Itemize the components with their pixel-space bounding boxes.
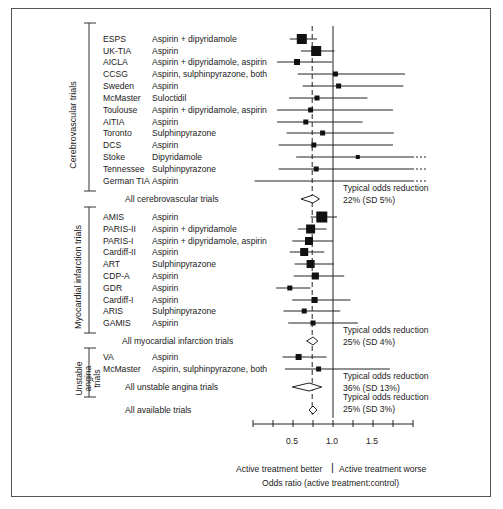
trial-treatment: Aspirin [152, 295, 178, 305]
overall-note: 25% (SD 3%) [343, 404, 395, 414]
point-estimate [311, 143, 316, 148]
summary-label: All myocardial infarction trials [122, 336, 233, 346]
trial-treatment: Aspirin, sulphinpyrazone, both [152, 69, 267, 79]
trial-name: GAMIS [103, 318, 131, 328]
direction-divider: | [331, 462, 334, 472]
trial-treatment: Aspirin + dipyridamole [152, 224, 237, 234]
point-estimate [311, 321, 316, 326]
trial-name: AITIA [103, 117, 125, 127]
summary-diamond [292, 383, 322, 391]
trial-treatment: Aspirin + dipyridamole [152, 34, 237, 44]
point-estimate [305, 237, 313, 245]
trial-name: AMIS [103, 212, 124, 222]
summary-note: Typical odds reduction [343, 371, 429, 381]
trial-name: Toronto [103, 128, 132, 138]
trial-treatment: Aspirin [152, 318, 178, 328]
trial-name: Tennessee [103, 164, 145, 174]
summary-diamond [307, 337, 318, 345]
tick-label-1-0: 1.0 [326, 436, 338, 446]
tick-label-0-5: 0.5 [286, 436, 298, 446]
trial-name: PARIS-II [103, 224, 136, 234]
point-estimate [297, 34, 307, 44]
point-estimate [315, 96, 320, 101]
point-estimate [302, 309, 307, 314]
trial-treatment: Aspirin [152, 352, 178, 362]
trial-name: PARIS-I [103, 236, 133, 246]
trial-treatment: Sulphinpyrazone [152, 306, 216, 316]
trial-name: Cardiff-II [103, 247, 136, 257]
trial-treatment: Aspirin [152, 212, 178, 222]
summary-note: Typical odds reduction [343, 325, 429, 335]
x-axis-label: Odds ratio (active treatment:control) [262, 478, 399, 488]
trial-treatment: Aspirin [152, 81, 178, 91]
trial-name: McMaster [103, 93, 141, 103]
trial-treatment: Aspirin [152, 176, 178, 186]
trial-treatment: Aspirin [152, 271, 178, 281]
point-estimate [314, 167, 319, 172]
trial-name: CDP-A [103, 271, 130, 281]
summary-note: 22% (SD 5%) [343, 195, 395, 205]
trial-name: Toulouse [103, 105, 137, 115]
summary-note: Typical odds reduction [343, 183, 429, 193]
trial-name: Cardiff-I [103, 295, 133, 305]
point-estimate [336, 84, 341, 89]
point-estimate [287, 286, 292, 291]
summary-label: All unstable angina trials [125, 382, 218, 392]
point-estimate [294, 59, 300, 65]
overall-note: Typical odds reduction [343, 392, 429, 402]
overall-diamond [309, 406, 317, 414]
trial-name: UK-TIA [103, 46, 131, 56]
trial-name: ARIS [103, 306, 123, 316]
group-label-myocardial: Myocardial infarction trials [73, 221, 83, 333]
trial-treatment: Aspirin [152, 247, 178, 257]
point-estimate [316, 212, 327, 223]
trial-name: ART [103, 259, 120, 269]
trial-name: DCS [103, 140, 121, 150]
trial-name: AICLA [103, 57, 128, 67]
trial-name: Sweden [103, 81, 134, 91]
direction-label-better: Active treatment better [236, 464, 322, 474]
point-estimate [303, 120, 308, 125]
trial-treatment: Aspirin, sulphinpyrazone, both [152, 364, 267, 374]
trial-treatment: Sulphinpyrazone [152, 128, 216, 138]
trial-name: VA [103, 352, 114, 362]
point-estimate [296, 354, 302, 360]
point-estimate [312, 297, 318, 303]
trial-name: Stoke [103, 152, 125, 162]
point-estimate [333, 72, 338, 77]
point-estimate [320, 131, 325, 136]
group-label-cerebrovascular: Cerebrovascular trials [68, 80, 78, 170]
tick-label-1-5: 1.5 [366, 436, 378, 446]
point-estimate [306, 225, 315, 234]
trial-treatment: Aspirin [152, 46, 178, 56]
point-estimate [356, 155, 360, 159]
summary-label: All cerebrovascular trials [125, 194, 219, 204]
overall-label: All available trials [125, 405, 191, 415]
trial-treatment: Aspirin + dipyridamole, aspirin [152, 57, 267, 67]
point-estimate [312, 273, 319, 280]
trial-treatment: Aspirin [152, 140, 178, 150]
point-estimate [300, 248, 308, 256]
trial-name: GDR [103, 283, 122, 293]
direction-label-worse: Active treatment worse [339, 464, 426, 474]
point-estimate [308, 108, 313, 113]
point-estimate [316, 367, 321, 372]
point-estimate [311, 46, 321, 56]
summary-note: 25% (SD 4%) [343, 337, 395, 347]
trial-name: German TIA [103, 176, 150, 186]
trial-treatment: Suloctidil [152, 93, 186, 103]
group-label-unstable-angina: Unstable angina trials [75, 359, 102, 399]
point-estimate [307, 260, 315, 268]
summary-diamond [301, 195, 319, 203]
trial-name: ESPS [103, 34, 126, 44]
trial-name: McMaster [103, 364, 141, 374]
trial-treatment: Aspirin + dipyridamole, aspirin [152, 105, 267, 115]
trial-treatment: Sulphinpyrazone [152, 164, 216, 174]
trial-treatment: Dipyridamole [152, 152, 202, 162]
trial-treatment: Aspirin [152, 283, 178, 293]
trial-name: CCSG [103, 69, 128, 79]
trial-treatment: Aspirin + dipyridamole, aspirin [152, 236, 267, 246]
trial-treatment: Aspirin [152, 117, 178, 127]
trial-treatment: Sulphinpyrazone [152, 259, 216, 269]
